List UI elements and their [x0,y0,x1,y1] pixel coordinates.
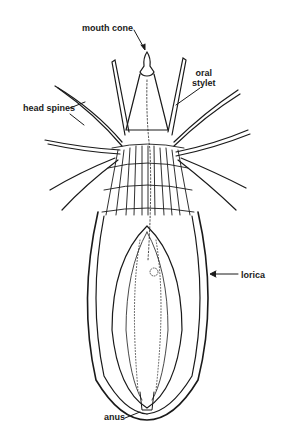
oral-stylet-label-line1: oral [192,68,216,78]
loricifera-diagram [0,0,296,440]
lorica-label: lorica [241,270,265,280]
oral-stylet-label: oral stylet [192,68,216,88]
oral-stylet-label-line2: stylet [192,78,216,88]
mouth-cone-label: mouth cone [82,23,133,33]
mouth-cone [126,52,168,260]
head-spines [45,86,250,210]
head-spines-label: head spines [23,103,75,113]
oral-stylets [112,58,186,135]
lorica [87,212,208,420]
diagram-drawing [45,30,250,420]
anus-label: anus [104,412,125,422]
